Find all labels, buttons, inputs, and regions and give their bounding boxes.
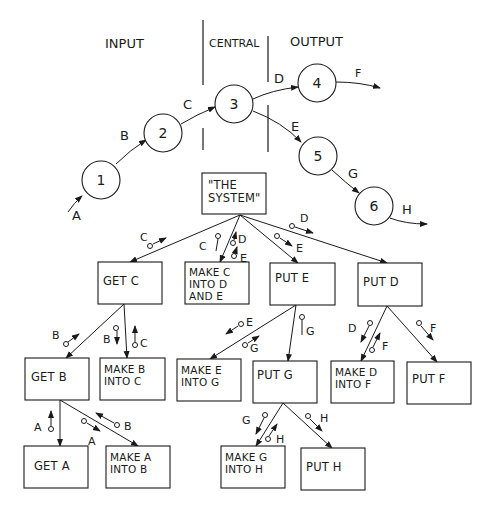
couple-label: C xyxy=(140,337,148,350)
couple-label: D xyxy=(348,322,356,335)
diagram-canvas: INPUT CENTRAL OUTPUT A B C D E F G H 1 2… xyxy=(0,0,498,516)
box-make-c-text: MAKE C INTO D AND E xyxy=(189,266,247,302)
flow-node-5-label: 5 xyxy=(314,148,323,164)
box-get-c-text: GET C xyxy=(103,275,159,288)
box-put-e-text: PUT E xyxy=(275,272,331,285)
box-put-g-text: PUT G xyxy=(257,369,313,382)
box-put-h-text: PUT H xyxy=(306,461,362,474)
box-make-g-text: MAKE G INTO H xyxy=(225,451,283,475)
flow-label-b: B xyxy=(120,128,129,143)
flow-node-2-label: 2 xyxy=(159,125,168,141)
couple-label: A xyxy=(34,421,42,434)
box-get-a-text: GET A xyxy=(34,460,86,473)
flow-label-d: D xyxy=(274,71,284,86)
box-get-b-text: GET B xyxy=(31,371,87,384)
section-output-label: OUTPUT xyxy=(290,34,343,49)
couple-label: B xyxy=(103,333,111,346)
flow-label-c: C xyxy=(183,97,192,112)
couple-label: C xyxy=(199,240,207,253)
box-put-f-text: PUT F xyxy=(412,373,468,386)
couple-label: C xyxy=(140,231,148,244)
box-make-b-text: MAKE B INTO C xyxy=(104,363,162,387)
couple-label: G xyxy=(250,342,259,355)
box-make-d-text: MAKE D INTO F xyxy=(335,366,393,390)
couple-label: G xyxy=(242,414,251,427)
flow-label-a: A xyxy=(72,208,81,223)
box-put-d-text: PUT D xyxy=(363,276,419,289)
couple-label: D xyxy=(300,212,308,225)
box-make-a-text: MAKE A INTO B xyxy=(110,451,168,475)
couple-label: E xyxy=(246,316,253,329)
couple-label: D xyxy=(238,233,246,246)
couple-label: F xyxy=(430,322,436,335)
couple-label: E xyxy=(296,242,303,255)
flow-label-e: E xyxy=(291,119,299,134)
flow-node-4-label: 4 xyxy=(313,75,322,91)
flow-label-g: G xyxy=(348,166,358,181)
box-make-e-text: MAKE E INTO G xyxy=(181,364,239,388)
flow-label-f: F xyxy=(355,67,361,80)
couple-label: A xyxy=(88,435,96,448)
flow-node-1-label: 1 xyxy=(97,172,106,188)
section-input-label: INPUT xyxy=(105,36,144,51)
couple-label: F xyxy=(382,340,388,353)
flow-node-3-label: 3 xyxy=(230,96,239,112)
couple-label: H xyxy=(276,433,284,446)
couple-label: B xyxy=(124,420,132,433)
couple-label: H xyxy=(320,412,328,425)
couple-label: B xyxy=(52,329,60,342)
flow-label-h: H xyxy=(402,202,412,217)
couple-label: G xyxy=(306,325,315,338)
section-central-label: CENTRAL xyxy=(209,37,260,50)
box-the-system-text: "THE SYSTEM" xyxy=(208,179,262,205)
flow-node-6-label: 6 xyxy=(370,198,379,214)
